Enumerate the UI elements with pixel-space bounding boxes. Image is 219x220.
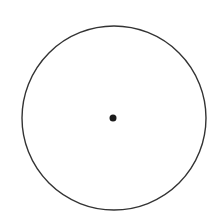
circle-diagram — [0, 0, 219, 220]
center-point — [110, 115, 117, 122]
diagram-canvas — [0, 0, 219, 220]
